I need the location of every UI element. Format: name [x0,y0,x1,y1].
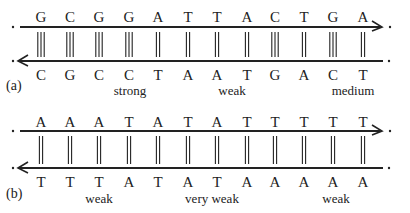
bottom-base: T [148,175,168,190]
binding-strength-label: strong [114,84,147,97]
top-base: A [89,115,109,130]
bottom-base: T [89,175,109,190]
bottom-base: A [294,175,314,190]
top-base: A [148,115,168,130]
strand-end-dot [389,26,391,28]
bottom-base: T [60,175,80,190]
bottom-base: A [237,175,257,190]
bottom-base: A [178,68,198,83]
bottom-base: A [294,68,314,83]
binding-strength-label: weak [322,192,349,205]
top-base: T [178,115,198,130]
strand-end-dot [389,130,391,132]
strand-end-dot [12,167,14,169]
top-base: T [353,115,373,130]
top-base: G [323,10,343,25]
panel-a-dna-duplex: GCGGATTACTGACGCCTAATGACTstrongweakmedium… [0,0,410,106]
top-base: T [294,10,314,25]
bottom-base: C [119,68,139,83]
panel-b-dna-duplex: AAATATATTTTTTTTATATAAAAAweakvery weakwea… [0,107,410,213]
top-base: G [89,10,109,25]
top-base: T [294,115,314,130]
top-base: T [237,115,257,130]
top-base: T [323,115,343,130]
bottom-base: C [89,68,109,83]
top-base: A [60,115,80,130]
bottom-base: A [207,68,227,83]
strand-end-dot [12,130,14,132]
bottom-base: A [178,175,198,190]
top-base: A [353,10,373,25]
panel-a-label: (a) [6,79,22,93]
bottom-base: T [148,68,168,83]
binding-strength-label: weak [218,84,245,97]
top-base: T [178,10,198,25]
top-base: A [237,10,257,25]
strand-end-dot [388,167,390,169]
bottom-base: A [353,175,373,190]
bottom-base: C [31,68,51,83]
bottom-base: T [31,175,51,190]
bottom-base: G [60,68,80,83]
strand-end-dot [12,60,14,62]
binding-strength-label: weak [85,192,112,205]
bottom-base: A [119,175,139,190]
strand-end-dot [12,26,14,28]
top-base: A [148,10,168,25]
bottom-base: C [323,68,343,83]
top-base: T [265,115,285,130]
bottom-base: T [353,68,373,83]
bottom-base: A [323,175,343,190]
top-base: C [265,10,285,25]
top-base: A [31,115,51,130]
top-base: T [207,10,227,25]
bottom-base: G [265,68,285,83]
binding-strength-label: medium [332,84,375,97]
top-base: G [31,10,51,25]
strand-end-dot [388,60,390,62]
top-base: C [60,10,80,25]
binding-strength-label: very weak [185,192,239,205]
bottom-base: A [265,175,285,190]
top-base: T [119,115,139,130]
top-base: G [119,10,139,25]
bottom-base: T [237,68,257,83]
panel-b-label: (b) [6,187,22,201]
bottom-base: T [207,175,227,190]
top-base: A [207,115,227,130]
